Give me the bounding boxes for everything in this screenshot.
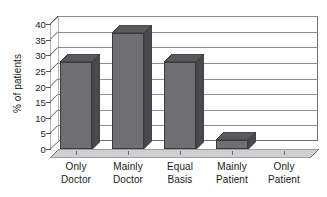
x-axis-tick [232, 151, 233, 155]
bar-front-face [216, 140, 248, 149]
bar-chart: % of patients 0510152025303540 OnlyDocto… [0, 0, 327, 197]
bar-top-face [112, 25, 152, 33]
plot-area [50, 24, 310, 149]
y-axis-tick [46, 133, 51, 134]
bar-top-face [164, 54, 204, 62]
x-axis-category-label-line: Basis [154, 174, 206, 187]
x-axis-category-label-line: Mainly [206, 161, 258, 174]
y-axis-title: % of patients [12, 29, 23, 139]
gridline [58, 16, 318, 17]
x-axis-category-label-line: Only [258, 161, 310, 174]
bar [216, 140, 248, 149]
bar-top-face [216, 132, 256, 140]
y-axis-tick [46, 55, 51, 56]
x-axis-category-labels: OnlyDoctorMainlyDoctorEqualBasisMainlyPa… [50, 155, 319, 195]
x-axis-category-label-line: Doctor [50, 174, 102, 187]
y-axis-tick-label: 15 [35, 97, 46, 108]
y-axis-tick-label: 40 [35, 19, 46, 30]
y-axis-ticks [50, 24, 60, 149]
y-axis-tick [46, 118, 51, 119]
bar-side-face [144, 25, 152, 149]
y-axis-tick [46, 102, 51, 103]
x-axis-tick [76, 151, 77, 155]
y-axis-tick [46, 149, 51, 150]
y-axis-tick [46, 71, 51, 72]
bar-front-face [164, 62, 196, 150]
x-axis-tick [284, 151, 285, 155]
bar [164, 62, 196, 150]
x-axis-category-label-line: Mainly [102, 161, 154, 174]
bar-front-face [112, 33, 144, 149]
bar [60, 62, 92, 150]
x-axis-category-label-line: Equal [154, 161, 206, 174]
x-axis-category-label: OnlyPatient [258, 161, 310, 186]
y-axis-tick [46, 87, 51, 88]
x-axis-category-label: MainlyDoctor [102, 161, 154, 186]
bar-series [50, 24, 310, 149]
x-axis-tick [128, 151, 129, 155]
y-axis-tick-labels: 0510152025303540 [24, 0, 46, 197]
x-axis-category-label: OnlyDoctor [50, 161, 102, 186]
y-axis-tick-label: 10 [35, 112, 46, 123]
x-axis-category-label: EqualBasis [154, 161, 206, 186]
bar-side-face [92, 54, 100, 150]
bar [268, 148, 300, 149]
bar [112, 33, 144, 149]
bar-top-face [60, 54, 100, 62]
x-axis-category-label-line: Patient [258, 174, 310, 187]
y-axis-tick [46, 24, 51, 25]
x-axis-category-label: MainlyPatient [206, 161, 258, 186]
x-axis-category-label-line: Only [50, 161, 102, 174]
x-axis-category-label-line: Patient [206, 174, 258, 187]
y-axis-tick-label: 25 [35, 65, 46, 76]
y-axis-tick-label: 35 [35, 34, 46, 45]
x-axis-tick [180, 151, 181, 155]
bar-front-face [60, 62, 92, 150]
x-axis-category-label-line: Doctor [102, 174, 154, 187]
y-axis-tick-label: 20 [35, 81, 46, 92]
bar-side-face [196, 54, 204, 150]
y-axis-tick-label: 30 [35, 50, 46, 61]
y-axis-tick [46, 40, 51, 41]
